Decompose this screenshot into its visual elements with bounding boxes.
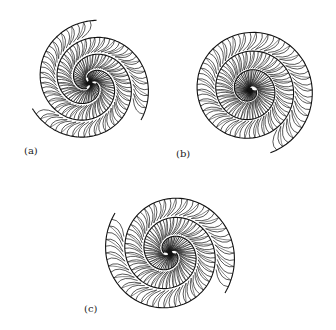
panel-label-b: (b) — [176, 148, 190, 159]
spiral-c-drawing — [0, 0, 336, 330]
panel-label-a: (a) — [24, 145, 38, 156]
spiral-panel-c — [0, 0, 336, 330]
panel-label-c: (c) — [84, 303, 97, 314]
